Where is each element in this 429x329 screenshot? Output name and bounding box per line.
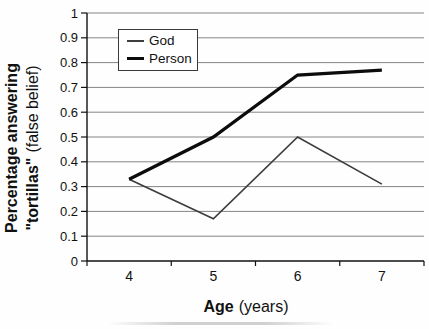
y-tick-label: 0.1 (60, 229, 78, 244)
y-tick-label: 0 (71, 254, 78, 269)
y-tick-label: 0.3 (60, 179, 78, 194)
series-lines (129, 70, 382, 219)
x-axis-title-regular: (years) (239, 298, 289, 315)
legend: God Person (118, 29, 198, 71)
x-tick-label: 5 (209, 268, 217, 284)
chart-figure: 00.10.20.30.40.50.60.70.80.914567 Percen… (0, 0, 429, 329)
y-tick-label: 1 (71, 6, 78, 21)
y-axis-title-line1: Percentage answering (3, 63, 20, 233)
person-line-sample (127, 57, 144, 60)
legend-label-god: God (149, 34, 175, 48)
x-tick-label: 4 (125, 268, 133, 284)
y-axis-title-line2: "tortillas"(false belief) (24, 65, 41, 230)
legend-item-god: God (127, 34, 197, 48)
y-tick-label: 0.2 (60, 204, 78, 219)
god-line-sample (127, 40, 144, 42)
y-tick-label: 0.5 (60, 130, 78, 145)
x-axis-title: Age(years) (203, 298, 288, 315)
y-axis-title-line2-bold: "tortillas" (24, 158, 41, 231)
series-line-god (129, 137, 382, 219)
legend-item-person: Person (127, 52, 197, 66)
y-tick-label: 0.6 (60, 105, 78, 120)
y-tick-label: 0.8 (60, 55, 78, 70)
y-tick-label: 0.4 (60, 154, 78, 169)
y-tick-label: 0.9 (60, 30, 78, 45)
x-axis-title-bold: Age (203, 298, 233, 315)
y-axis-title-line2-regular: (false belief) (24, 65, 41, 152)
chart-canvas: 00.10.20.30.40.50.60.70.80.914567 Percen… (0, 0, 429, 329)
x-tick-label: 7 (378, 268, 386, 284)
y-tick-label: 0.7 (60, 80, 78, 95)
legend-label-person: Person (149, 52, 192, 66)
tick-labels: 00.10.20.30.40.50.60.70.80.914567 (60, 6, 386, 285)
scan-artifact (108, 322, 333, 325)
x-tick-label: 6 (294, 268, 302, 284)
